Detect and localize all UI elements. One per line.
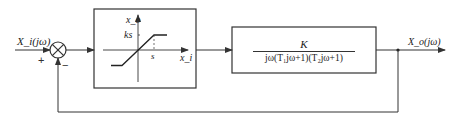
input-label: X_i(jω) xyxy=(17,36,50,47)
saturation-curve-icon xyxy=(103,15,188,82)
minus-sign: − xyxy=(62,60,68,71)
block-diagram: X_i(jω) + − x_o ks s x_i K jω(T₁jω+1)(T₂… xyxy=(0,0,453,124)
tf-numerator: K xyxy=(300,38,307,51)
y-axis-label: x_o xyxy=(126,15,140,25)
summing-junction-icon xyxy=(50,42,66,58)
x-axis-label: x_i xyxy=(180,53,192,63)
transfer-function: K jω(T₁jω+1)(T₂jω+1) xyxy=(232,27,376,73)
plus-sign: + xyxy=(38,55,44,66)
output-label: X_o(jω) xyxy=(408,37,441,47)
nonlinear-block xyxy=(94,9,196,88)
saturation-input-label: s xyxy=(151,52,155,61)
saturation-output-label: ks xyxy=(124,30,132,40)
tf-denominator: jω(T₁jω+1)(T₂jω+1) xyxy=(265,52,343,63)
